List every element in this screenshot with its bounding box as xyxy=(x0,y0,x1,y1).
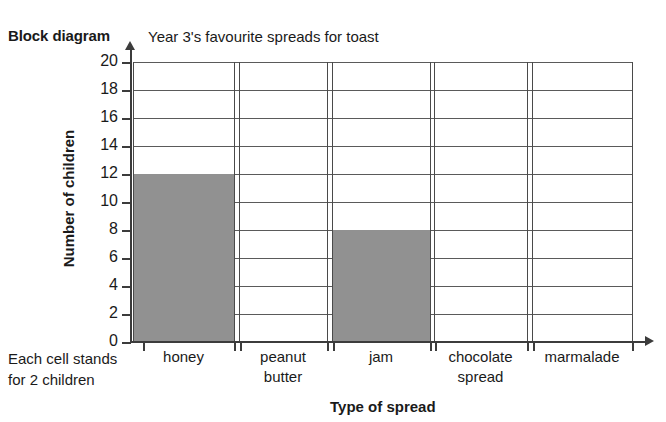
x-axis-category-label-line: spread xyxy=(434,367,527,387)
x-axis-category-label: honey xyxy=(133,347,234,367)
cell-value-key-line-1: Each cell stands xyxy=(8,348,117,369)
x-axis-tick xyxy=(234,342,236,351)
cell-value-key-line-2: for 2 children xyxy=(8,369,117,390)
x-axis-category-label-line: jam xyxy=(332,347,430,367)
gridline xyxy=(133,118,632,119)
x-axis-category-label: marmalade xyxy=(532,347,632,367)
x-axis-category-label: jam xyxy=(332,347,430,367)
y-axis-tick xyxy=(122,258,131,260)
cell-divider-line xyxy=(632,62,633,342)
y-axis-title: Number of children xyxy=(60,89,77,309)
y-axis-tick xyxy=(122,90,131,92)
y-axis-tick-label: 10 xyxy=(78,192,118,210)
x-axis-tick xyxy=(327,342,329,351)
block-diagram-label: Block diagram xyxy=(8,27,110,44)
cell-divider-line xyxy=(430,62,431,342)
cell-divider-line xyxy=(527,62,528,342)
x-axis-category-label-line: peanut xyxy=(239,347,327,367)
x-axis-category-label-line: butter xyxy=(239,367,327,387)
y-axis-tick xyxy=(122,202,131,204)
plot-area xyxy=(133,62,632,342)
cell-value-key: Each cell stands for 2 children xyxy=(8,348,117,390)
y-axis-tick-label: 18 xyxy=(78,80,118,98)
x-axis-category-label-line: chocolate xyxy=(434,347,527,367)
y-axis-tick xyxy=(122,62,131,64)
bar xyxy=(134,174,234,342)
cell-divider-line xyxy=(239,62,240,342)
cell-divider-line xyxy=(532,62,533,342)
y-axis-arrow-icon xyxy=(125,41,135,50)
y-axis-tick-label: 4 xyxy=(78,276,118,294)
x-axis-line xyxy=(130,341,648,343)
y-axis-tick xyxy=(122,146,131,148)
y-axis-line xyxy=(130,48,132,342)
y-axis-tick xyxy=(122,174,131,176)
y-axis-tick-label: 14 xyxy=(78,136,118,154)
x-axis-arrow-icon xyxy=(645,336,654,346)
x-axis-category-label-line: marmalade xyxy=(532,347,632,367)
y-axis-tick xyxy=(122,314,131,316)
x-axis-title: Type of spread xyxy=(330,398,436,415)
cell-divider-line xyxy=(234,62,235,342)
y-axis-tick-label: 6 xyxy=(78,248,118,266)
x-axis-tick xyxy=(430,342,432,351)
y-axis-tick-label: 2 xyxy=(78,304,118,322)
cell-divider-line xyxy=(327,62,328,342)
chart-title: Year 3's favourite spreads for toast xyxy=(148,28,379,45)
x-axis-category-label-line: honey xyxy=(133,347,234,367)
cell-divider-line xyxy=(434,62,435,342)
x-axis-tick xyxy=(632,342,634,351)
gridline xyxy=(133,90,632,91)
bar xyxy=(333,230,430,342)
y-axis-tick-label: 8 xyxy=(78,220,118,238)
y-axis-tick xyxy=(122,342,131,344)
x-axis-tick xyxy=(527,342,529,351)
gridline xyxy=(133,146,632,147)
y-axis-tick-label: 16 xyxy=(78,108,118,126)
x-axis-category-label: peanutbutter xyxy=(239,347,327,387)
y-axis-tick-label: 12 xyxy=(78,164,118,182)
y-axis-tick xyxy=(122,230,131,232)
y-axis-tick-label: 20 xyxy=(78,52,118,70)
y-axis-tick xyxy=(122,118,131,120)
gridline xyxy=(133,62,632,63)
y-axis-tick xyxy=(122,286,131,288)
x-axis-category-label: chocolatespread xyxy=(434,347,527,387)
